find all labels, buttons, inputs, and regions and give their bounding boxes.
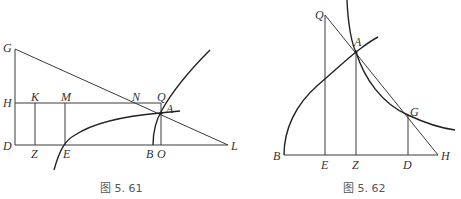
label-Q: Q — [157, 90, 166, 104]
figure-caption: 图 5. 61 — [100, 182, 143, 195]
label-E: E — [320, 158, 329, 172]
label-Q: Q — [315, 8, 324, 22]
label-N: N — [131, 90, 141, 104]
label-O: O — [157, 147, 166, 161]
point-A — [159, 111, 162, 114]
label-L: L — [230, 139, 238, 153]
label-B: B — [273, 149, 281, 163]
diagram-canvas: G H D K M N Q A Z E B O L 图 5. 61 Q A G … — [0, 0, 461, 199]
label-E: E — [62, 147, 71, 161]
label-B: B — [146, 147, 154, 161]
label-Z: Z — [352, 158, 359, 172]
label-D: D — [402, 158, 412, 172]
curve-parabola — [284, 37, 378, 155]
label-A: A — [353, 35, 362, 49]
point-A — [354, 50, 357, 53]
label-H: H — [2, 96, 13, 110]
label-A: A — [165, 102, 174, 116]
label-Z: Z — [31, 147, 38, 161]
curve-hyperbola — [347, 0, 455, 130]
figure-5-61: G H D K M N Q A Z E B O L 图 5. 61 — [2, 41, 238, 195]
label-D: D — [2, 139, 12, 153]
label-H: H — [440, 149, 451, 163]
figure-caption: 图 5. 62 — [343, 182, 386, 195]
label-G: G — [410, 105, 419, 119]
figure-5-62: Q A G B E Z D H 图 5. 62 — [273, 0, 455, 195]
line-QH — [325, 15, 438, 155]
label-M: M — [60, 90, 72, 104]
label-K: K — [30, 90, 40, 104]
label-G: G — [3, 41, 12, 55]
line-GL — [15, 49, 228, 145]
